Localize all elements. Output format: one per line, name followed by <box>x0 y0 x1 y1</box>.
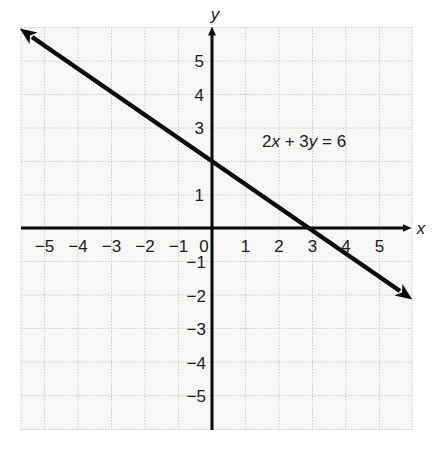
y-tick-label: −2 <box>187 287 206 306</box>
coordinate-plane-chart: y x −5 −4 −3 −2 −1 0 1 2 3 4 5 5 4 3 1 −… <box>0 0 441 454</box>
y-tick-label: −5 <box>187 387 206 406</box>
x-tick-label: 1 <box>241 237 250 256</box>
y-tick-label: 5 <box>195 52 204 71</box>
y-tick-label: −4 <box>187 354 206 373</box>
y-axis-label: y <box>210 5 221 24</box>
x-tick-label: 3 <box>308 237 317 256</box>
x-tick-label: −5 <box>35 237 54 256</box>
x-tick-label: −3 <box>102 237 121 256</box>
y-tick-label: −3 <box>187 320 206 339</box>
x-tick-label: 5 <box>375 237 384 256</box>
equation-annotation: 2x + 3y = 6 <box>262 132 346 151</box>
equation-part: = 6 <box>317 132 346 151</box>
equation-part: x <box>270 132 280 151</box>
x-tick-label: −4 <box>68 237 87 256</box>
x-tick-label: 2 <box>274 237 283 256</box>
y-tick-label: 4 <box>195 86 204 105</box>
y-tick-label: 3 <box>195 119 204 138</box>
equation-part: 2 <box>262 132 271 151</box>
y-tick-label: 1 <box>195 186 204 205</box>
x-tick-label: −1 <box>169 237 188 256</box>
x-tick-label: −2 <box>135 237 154 256</box>
x-tick-label: 4 <box>341 237 350 256</box>
x-axis-label: x <box>416 219 426 238</box>
y-tick-label: −1 <box>187 253 206 272</box>
graph-figure: y x −5 −4 −3 −2 −1 0 1 2 3 4 5 5 4 3 1 −… <box>0 0 441 454</box>
equation-part: + 3 <box>280 132 309 151</box>
